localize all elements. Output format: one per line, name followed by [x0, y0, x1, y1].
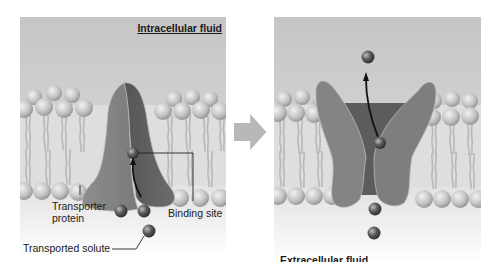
transporter-protein-label: Transporter protein	[52, 200, 106, 224]
intracellular-fluid-label: Intracellular fluid	[137, 22, 222, 34]
right-arrow-icon	[232, 112, 272, 152]
extracellular-fluid-label: Extracellular fluid	[280, 254, 368, 262]
membrane-transport-illustration-before	[20, 17, 226, 257]
free-solute	[143, 225, 156, 238]
free-solute	[138, 205, 151, 218]
transporter-label-line1: Transporter	[52, 200, 106, 212]
membrane-transport-illustration-after	[274, 17, 481, 262]
transported-solute-label: Transported solute	[23, 242, 110, 254]
released-solute	[362, 51, 375, 64]
panel-before: Intracellular fluid Transporter protein …	[20, 17, 226, 257]
transporter-label-line2: protein	[52, 212, 106, 224]
solute-in-channel	[374, 137, 386, 149]
free-solute	[368, 227, 381, 240]
binding-site-label: Binding site	[168, 207, 222, 219]
panel-after: Extracellular fluid	[274, 17, 481, 262]
free-solute	[115, 205, 128, 218]
free-solute	[369, 203, 382, 216]
